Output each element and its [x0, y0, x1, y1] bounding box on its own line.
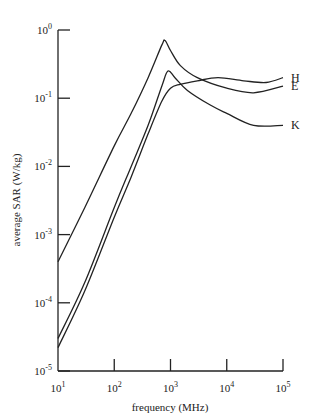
y-tick-label: 100 [37, 22, 52, 36]
curve-h [58, 78, 283, 348]
y-tick-label: 10-3 [34, 227, 52, 241]
x-tick-label: 102 [107, 380, 122, 394]
curve-e [58, 40, 283, 262]
x-tick-label: 103 [163, 380, 178, 394]
x-axis-title: frequency (MHz) [132, 401, 209, 414]
y-tick-label: 10-1 [34, 90, 52, 104]
curve-labels: EKH [291, 71, 300, 133]
curves [58, 40, 283, 348]
sar-frequency-chart: 10010-110-210-310-410-5 101102103104105 … [0, 0, 313, 419]
y-tick-label: 10-4 [34, 295, 52, 309]
y-axis-title: average SAR (W/kg) [10, 153, 23, 246]
y-tick-label: 10-5 [34, 363, 52, 377]
x-ticks: 101102103104105 [51, 359, 291, 394]
x-tick-label: 105 [276, 380, 291, 394]
curve-label-k: K [291, 118, 300, 132]
x-tick-label: 104 [219, 380, 234, 394]
curve-label-h: H [291, 71, 300, 85]
x-tick-label: 101 [51, 380, 66, 394]
curve-k [58, 71, 283, 339]
y-tick-label: 10-2 [34, 158, 52, 172]
